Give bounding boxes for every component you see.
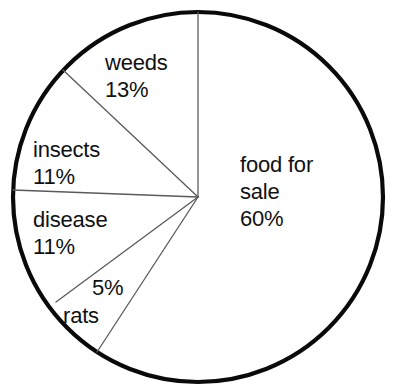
slice-label-rats-percent: 5% xyxy=(92,275,123,300)
slice-label-disease-percent: 11% xyxy=(33,234,75,259)
slice-label-food-line2: sale xyxy=(240,179,280,204)
slice-label-weeds-name: weeds xyxy=(104,50,168,75)
pie-chart-canvas: weeds 13% insects 11% disease 11% 5% rat… xyxy=(0,0,395,388)
slice-label-insects-name: insects xyxy=(33,137,100,162)
slice-label-rats-name: rats xyxy=(63,303,99,328)
slice-label-disease-name: disease xyxy=(33,207,107,232)
slice-label-weeds-percent: 13% xyxy=(105,77,148,102)
pie-chart: weeds 13% insects 11% disease 11% 5% rat… xyxy=(0,0,395,388)
slice-label-food-percent: 60% xyxy=(240,206,283,231)
slice-label-insects-percent: 11% xyxy=(33,164,75,189)
slice-label-food-line1: food for xyxy=(240,152,313,177)
